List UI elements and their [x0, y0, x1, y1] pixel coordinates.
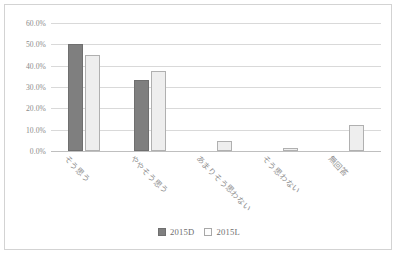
- legend-item[interactable]: 2015D: [158, 227, 194, 237]
- chart-legend: 2015D2015L: [5, 227, 393, 237]
- bar-group: [117, 23, 183, 151]
- x-axis-labels: そう思うややそう思うあまりそう思わないそう思わない無回答: [51, 153, 381, 213]
- bar-2015d: [134, 80, 149, 151]
- x-axis-category-label: ややそう思う: [128, 153, 171, 196]
- y-axis-tick-label: 50.0%: [26, 40, 46, 49]
- legend-label: 2015D: [170, 227, 194, 237]
- x-axis-category-label: そう思う: [62, 153, 93, 184]
- y-axis-tick-label: 10.0%: [26, 125, 46, 134]
- chart-frame: 0.0%10.0%20.0%30.0%40.0%50.0%60.0% そう思うや…: [4, 4, 392, 250]
- y-axis-tick-label: 0.0%: [30, 147, 46, 156]
- legend-label: 2015L: [216, 227, 239, 237]
- bar-2015l: [283, 148, 298, 151]
- y-axis-tick-label: 20.0%: [26, 104, 46, 113]
- x-axis-category-label: 無回答: [326, 153, 351, 178]
- y-axis-tick-label: 30.0%: [26, 83, 46, 92]
- bars-layer: [51, 23, 381, 151]
- bar-2015d: [68, 44, 83, 151]
- legend-swatch-icon: [204, 228, 212, 236]
- x-axis-category-label: あまりそう思わない: [194, 153, 254, 213]
- y-axis-tick-label: 40.0%: [26, 61, 46, 70]
- y-axis-tick-label: 60.0%: [26, 19, 46, 28]
- gridline: 0.0%: [51, 151, 381, 152]
- legend-item[interactable]: 2015L: [204, 227, 239, 237]
- bar-group: [315, 23, 381, 151]
- x-axis-category-label: そう思わない: [260, 153, 303, 196]
- bar-2015l: [85, 55, 100, 151]
- bar-group: [249, 23, 315, 151]
- bar-2015l: [217, 141, 232, 151]
- legend-swatch-icon: [158, 228, 166, 236]
- bar-2015l: [349, 125, 364, 151]
- plot-area: 0.0%10.0%20.0%30.0%40.0%50.0%60.0%: [51, 23, 381, 151]
- bar-group: [183, 23, 249, 151]
- bar-2015l: [151, 71, 166, 151]
- bar-group: [51, 23, 117, 151]
